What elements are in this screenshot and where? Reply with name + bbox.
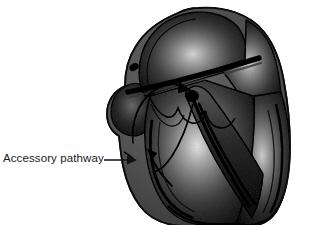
heart-conduction-diagram: Accessory pathway [0,0,313,225]
heart-illustration-svg [0,0,313,225]
accessory-pathway-label: Accessory pathway [3,151,104,165]
